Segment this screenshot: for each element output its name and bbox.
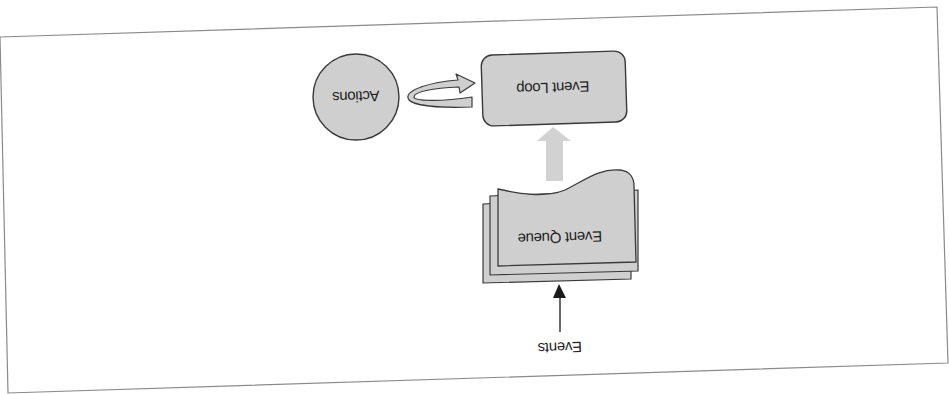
diagram-canvas (0, 0, 949, 394)
diagram-frame (0, 7, 948, 393)
event-loop-label: Event Loop (516, 78, 589, 97)
events-label: Events (538, 339, 583, 357)
actions-label: Actions (332, 88, 380, 106)
event-queue-label: Event Queue (518, 228, 603, 248)
